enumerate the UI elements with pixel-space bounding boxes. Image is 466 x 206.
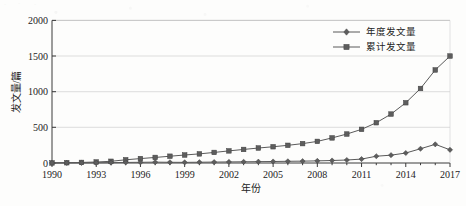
diamond-marker-icon (403, 150, 408, 155)
square-marker-icon (359, 127, 364, 132)
square-marker-icon (403, 100, 408, 105)
diamond-marker-icon (241, 159, 246, 164)
square-marker-icon (344, 44, 349, 49)
diamond-marker-icon (388, 153, 393, 158)
x-tick-label: 1996 (130, 169, 150, 180)
svg-text:·: · (18, 0, 20, 8)
diamond-marker-icon (418, 146, 423, 151)
figure-container: · · · 2000 1500 (0, 0, 466, 206)
series-annual-publications (49, 142, 452, 166)
square-marker-icon (182, 153, 187, 158)
x-tick-label: 2005 (263, 169, 283, 180)
square-marker-icon (168, 154, 173, 159)
square-marker-icon (374, 120, 379, 125)
diamond-marker-icon (226, 159, 231, 164)
square-marker-icon (330, 136, 335, 141)
square-marker-icon (227, 149, 232, 154)
x-tick-label: 2002 (219, 169, 239, 180)
square-marker-icon (286, 143, 291, 148)
legend-item-annual[interactable]: 年度发文量 (333, 26, 416, 37)
y-tick-label: 0 (43, 158, 48, 169)
x-tick-label: 1993 (86, 169, 106, 180)
diamond-marker-icon (167, 160, 172, 165)
square-marker-icon (241, 147, 246, 152)
diamond-marker-icon (447, 147, 452, 152)
line-chart: · · · 2000 1500 (0, 0, 466, 206)
y-tick-label: 2000 (28, 15, 48, 26)
diamond-marker-icon (212, 159, 217, 164)
square-marker-icon (271, 144, 276, 149)
x-tick-label: 1999 (175, 169, 195, 180)
square-marker-icon (153, 155, 158, 160)
diamond-marker-icon (359, 156, 364, 161)
x-tick-label: 2014 (396, 169, 416, 180)
diamond-marker-icon (374, 154, 379, 159)
diamond-marker-icon (344, 157, 349, 162)
x-tick-label: 2017 (440, 169, 460, 180)
diamond-marker-icon (182, 160, 187, 165)
y-axis-tick-labels: 2000 1500 1000 500 0 (28, 15, 48, 169)
y-tick-label: 500 (33, 122, 48, 133)
legend-label-cumulative: 累计发文量 (366, 41, 416, 52)
square-marker-icon (197, 152, 202, 157)
y-tick-label: 1500 (28, 51, 48, 62)
legend: 年度发文量 累计发文量 (333, 26, 416, 52)
svg-text:·: · (4, 1, 6, 9)
legend-label-annual: 年度发文量 (366, 26, 416, 37)
x-axis-tick-labels: 1990199319961999200220052008201120142017 (42, 169, 460, 180)
y-axis-ticks (52, 20, 56, 163)
square-marker-icon (389, 112, 394, 117)
diamond-marker-icon (433, 142, 438, 147)
square-marker-icon (315, 139, 320, 144)
x-tick-label: 1990 (42, 169, 62, 180)
series-cumulative-publications (50, 54, 453, 165)
diamond-marker-icon (153, 160, 158, 165)
square-marker-icon (300, 141, 305, 146)
x-tick-label: 2008 (307, 169, 327, 180)
square-marker-icon (433, 68, 438, 73)
scan-artifact-text: · · · (4, 0, 36, 9)
diamond-marker-icon (197, 160, 202, 165)
legend-item-cumulative[interactable]: 累计发文量 (333, 41, 416, 52)
x-tick-label: 2011 (352, 169, 372, 180)
diamond-marker-icon (329, 158, 334, 163)
square-marker-icon (256, 146, 261, 151)
square-marker-icon (418, 86, 423, 91)
series-line (52, 56, 450, 163)
square-marker-icon (448, 54, 453, 59)
y-axis-title: 发文量/篇 (10, 71, 22, 114)
diamond-marker-icon (344, 29, 349, 35)
x-axis-title: 年份 (241, 182, 261, 194)
svg-text:·: · (34, 1, 36, 9)
y-tick-label: 1000 (28, 86, 48, 97)
square-marker-icon (345, 132, 350, 137)
square-marker-icon (212, 150, 217, 155)
